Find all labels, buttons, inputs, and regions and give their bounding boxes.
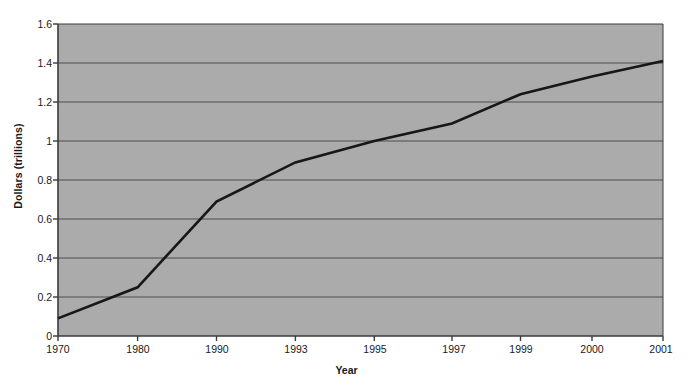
- x-tick-label: 1999: [486, 344, 556, 355]
- line-chart: Dollars (trillions) 1.6 1.4 1.2 1 0.8 0.…: [0, 0, 693, 384]
- x-tick-label: 1997: [419, 344, 489, 355]
- x-tick-label: 1970: [23, 344, 93, 355]
- x-tick-label: 1995: [340, 344, 410, 355]
- x-tick-label: 1990: [182, 344, 252, 355]
- x-axis-title: Year: [0, 364, 693, 376]
- x-tick-label: 1980: [103, 344, 173, 355]
- x-axis-ticks: 1970 1980 1990 1993 1995 1997 1999 2000 …: [0, 0, 693, 384]
- x-tick-label: 1993: [261, 344, 331, 355]
- x-tick-label: 2001: [626, 344, 693, 355]
- x-tick-label: 2000: [557, 344, 627, 355]
